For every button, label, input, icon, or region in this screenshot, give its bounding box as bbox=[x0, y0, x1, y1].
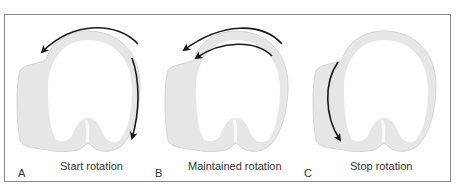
panel-b-shape bbox=[165, 28, 288, 151]
panel-a-letter: A bbox=[18, 167, 25, 179]
panel-a-shape bbox=[17, 28, 140, 152]
panel-b-letter: B bbox=[155, 167, 162, 179]
panel-c-caption: Stop rotation bbox=[350, 160, 412, 172]
panel-c-shape bbox=[313, 31, 436, 152]
panel-c-letter: C bbox=[304, 167, 312, 179]
panel-b-caption: Maintained rotation bbox=[188, 160, 282, 172]
panel-a-caption: Start rotation bbox=[60, 160, 123, 172]
